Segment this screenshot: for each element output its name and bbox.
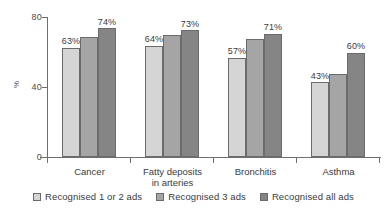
bar-asthma-recognised-all-ads[interactable] [347,53,365,157]
bar-group-bronchitis: 57% 71% [214,18,297,157]
bar-cancer-recognised-3-ads[interactable] [80,37,98,157]
legend-swatch-icon-light [33,193,41,201]
bar-group-fatty-deposits-in-arteries: 64% 73% [131,18,214,157]
bar-label-cancer-series-1: 63% [56,36,86,46]
bar-label-fatty-deposits-series-3: 73% [175,19,205,29]
legend-label-recognised-all-ads: Recognised all ads [272,191,354,202]
category-label-bronchitis: Bronchitis [214,166,297,177]
legend-item-recognised-1-or-2-ads[interactable]: Recognised 1 or 2 ads [33,191,142,202]
bar-label-asthma-series-1: 43% [305,71,335,81]
bar-cancer-recognised-1-or-2-ads[interactable] [62,48,80,158]
bar-label-bronchitis-series-3: 71% [258,22,288,32]
bar-fatty-deposits-recognised-3-ads[interactable] [163,35,181,157]
bar-asthma-recognised-3-ads[interactable] [329,74,347,157]
x-axis-line [40,157,381,158]
bar-label-bronchitis-series-1: 57% [222,46,252,56]
bar-asthma-recognised-1-or-2-ads[interactable] [311,82,329,157]
y-tick-label-40: 40 [18,82,42,92]
bar-bronchitis-recognised-3-ads[interactable] [246,39,264,157]
category-label-cancer: Cancer [48,166,131,177]
legend-item-recognised-3-ads[interactable]: Recognised 3 ads [156,191,246,202]
legend-label-recognised-3-ads: Recognised 3 ads [168,191,246,202]
chart-legend: Recognised 1 or 2 ads Recognised 3 ads R… [0,191,387,202]
bar-cancer-recognised-all-ads[interactable] [98,28,116,157]
category-label-fatty-deposits-in-arteries: Fatty deposits in arteries [131,166,214,188]
legend-swatch-icon-medium [156,193,164,201]
x-tick-3 [296,158,297,163]
bar-fatty-deposits-recognised-1-or-2-ads[interactable] [145,46,163,157]
bar-bronchitis-recognised-all-ads[interactable] [264,34,282,157]
legend-swatch-icon-dark [260,193,268,201]
bar-label-cancer-series-3: 74% [92,17,122,27]
y-tick-label-0: 0 [18,152,42,162]
bar-label-asthma-series-3: 60% [341,41,371,51]
bar-bronchitis-recognised-1-or-2-ads[interactable] [228,58,246,157]
y-axis-title: % [12,77,21,93]
legend-item-recognised-all-ads[interactable]: Recognised all ads [260,191,354,202]
x-tick-0 [47,158,48,163]
category-label-asthma: Asthma [297,166,380,177]
bar-chart: 80 40 0 % 63% 74% 64% 73% 57 [0,0,387,211]
bar-group-asthma: 43% 60% [297,18,380,157]
x-tick-1 [130,158,131,163]
x-tick-2 [213,158,214,163]
bar-fatty-deposits-recognised-all-ads[interactable] [181,30,199,157]
y-tick-label-80: 80 [18,12,42,22]
bar-label-fatty-deposits-series-1: 64% [139,34,169,44]
x-tick-4 [379,158,380,163]
plot-area: 63% 74% 64% 73% 57% 71% 43% 60% [48,18,378,157]
legend-label-recognised-1-or-2-ads: Recognised 1 or 2 ads [45,191,142,202]
bar-group-cancer: 63% 74% [48,18,131,157]
